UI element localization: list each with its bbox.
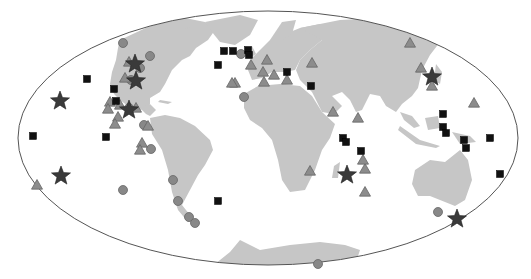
borneo (425, 116, 440, 130)
greenland (205, 15, 258, 45)
circle-marker (240, 93, 249, 102)
circle-marker (434, 208, 443, 217)
triangle-marker (469, 98, 480, 108)
square-marker (461, 137, 468, 144)
square-marker (221, 48, 228, 55)
square-marker (463, 145, 470, 152)
square-marker (343, 139, 350, 146)
square-marker (111, 86, 118, 93)
madagascar (332, 162, 340, 178)
square-marker (84, 76, 91, 83)
square-marker (215, 198, 222, 205)
circle-marker (147, 145, 156, 154)
triangle-marker (358, 155, 369, 165)
circle-marker (191, 219, 200, 228)
circle-marker (119, 186, 128, 195)
circle-marker (237, 50, 246, 59)
triangle-marker (353, 113, 364, 123)
square-marker (440, 111, 447, 118)
circle-marker (169, 176, 178, 185)
triangle-marker (137, 138, 148, 148)
circle-marker (174, 197, 183, 206)
star-marker (52, 166, 71, 184)
square-marker (358, 148, 365, 155)
circle-marker (314, 260, 323, 269)
south-america (150, 115, 213, 222)
new-zealand (474, 212, 484, 226)
circle-marker (119, 39, 128, 48)
square-marker (487, 135, 494, 142)
world-map (0, 0, 531, 279)
square-marker (230, 48, 237, 55)
caribbean (158, 100, 172, 104)
circle-marker (146, 52, 155, 61)
square-marker (308, 83, 315, 90)
square-marker (443, 130, 450, 137)
australia (412, 150, 472, 206)
square-marker (246, 52, 253, 59)
square-marker (103, 134, 110, 141)
triangle-marker (282, 75, 293, 85)
star-marker (338, 165, 357, 183)
square-marker (497, 171, 504, 178)
square-marker (284, 69, 291, 76)
southeast-asia (400, 112, 420, 128)
triangle-marker (360, 187, 371, 197)
land-masses (110, 15, 484, 272)
square-marker (215, 62, 222, 69)
antarctica (210, 240, 360, 272)
square-marker (30, 133, 37, 140)
square-marker (113, 98, 120, 105)
triangle-marker (360, 164, 371, 174)
star-marker (51, 91, 70, 109)
sumatra-java (398, 126, 440, 148)
